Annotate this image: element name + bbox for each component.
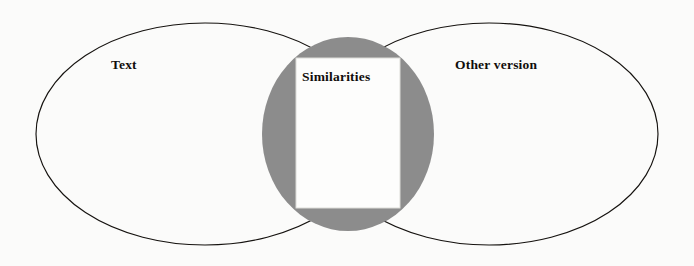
left-set-label: Text	[111, 58, 137, 72]
overlap-label: Similarities	[302, 70, 370, 84]
venn-diagram-canvas	[0, 0, 694, 266]
right-set-label: Other version	[455, 58, 537, 72]
venn-diagram: Text Similarities Other version	[0, 0, 694, 266]
